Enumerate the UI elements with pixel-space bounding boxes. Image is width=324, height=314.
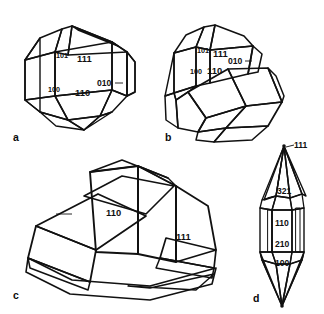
panel-a-label-111: 111 <box>77 53 92 64</box>
figure-plate: 101 111 010 100 110 a 101 111 010 1 <box>0 0 324 314</box>
panel-d-label-110: 110 <box>275 218 289 228</box>
panel-a-label-100: 100 <box>48 85 60 94</box>
panel-b-label-010: 010 <box>228 56 243 66</box>
panel-d-letter: d <box>253 292 259 304</box>
panel-a-label-110: 110 <box>75 87 90 98</box>
panel-b-label-101: 101 <box>197 46 209 55</box>
panel-d-label-111: 111 <box>294 140 308 150</box>
panel-b-label-110: 110 <box>207 65 222 76</box>
panel-d-label-100: 100 <box>275 258 290 268</box>
panel-d-label-210: 210 <box>275 239 290 249</box>
panel-d-top-apex <box>282 144 286 148</box>
crystal-figure-svg: 101 111 010 100 110 a 101 111 010 1 <box>0 0 324 314</box>
panel-d-label-321: 321 <box>277 186 292 196</box>
panel-c-letter: c <box>13 289 19 301</box>
panel-a-label-101: 101 <box>56 51 68 60</box>
panel-b-label-100: 100 <box>190 67 202 76</box>
panel-b-label-111: 111 <box>213 48 228 59</box>
panel-c-label-111: 111 <box>176 231 191 242</box>
panel-d-bottom-apex <box>280 304 284 308</box>
panel-c-label-110: 110 <box>106 207 121 218</box>
panel-b-letter: b <box>165 131 171 143</box>
panel-a-letter: a <box>13 131 19 143</box>
panel-a-label-010: 010 <box>97 78 112 88</box>
